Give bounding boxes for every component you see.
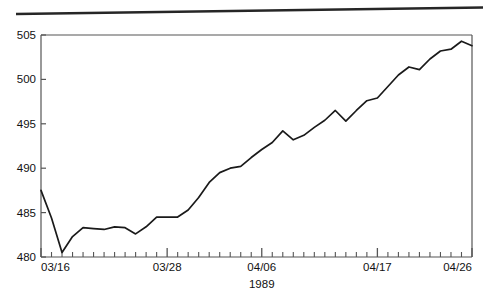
y-axis-tick-labels: 480485490495500505 [17, 29, 36, 263]
y-axis-tick-label: 490 [17, 162, 36, 174]
x-axis-tick-label: 04/06 [247, 261, 276, 273]
line-chart-plot: 480485490495500505 03/1603/2804/0604/170… [0, 0, 499, 304]
y-axis-tick-label: 505 [17, 29, 36, 41]
x-axis-tick-label: 04/26 [443, 261, 472, 273]
data-series-line [41, 41, 472, 252]
x-axis-tick-label: 03/16 [41, 261, 70, 273]
y-axis-tick-label: 480 [17, 251, 36, 263]
chart-figure: 480485490495500505 03/1603/2804/0604/170… [0, 0, 499, 304]
y-axis-ticks [41, 35, 46, 257]
x-axis-tick-label: 04/17 [363, 261, 392, 273]
x-axis-ticks [41, 248, 472, 257]
y-axis-tick-label: 495 [17, 118, 36, 130]
x-axis-tick-labels: 03/1603/2804/0604/1704/26 [41, 261, 472, 273]
y-axis-tick-label: 500 [17, 73, 36, 85]
x-axis-title: 1989 [249, 278, 275, 290]
x-axis-tick-label: 03/28 [153, 261, 182, 273]
y-axis-tick-label: 485 [17, 207, 36, 219]
